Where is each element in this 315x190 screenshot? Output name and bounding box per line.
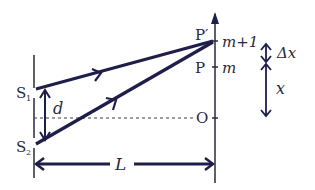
label-s2: S: [16, 138, 26, 156]
label-L: L: [114, 154, 126, 174]
label-p: P: [195, 59, 205, 77]
screen-arrow-icon: [211, 12, 219, 24]
label-s2-subscript: 2: [26, 148, 31, 157]
label-x: x: [276, 79, 285, 98]
label-m-plus-1: m+1: [222, 33, 258, 51]
label-m: m: [222, 59, 236, 77]
label-o: O: [196, 109, 208, 127]
label-d: d: [53, 99, 63, 118]
label-s1-subscript: 1: [26, 94, 31, 103]
label-s1: S: [16, 84, 26, 102]
label-delta-x: Δx: [276, 44, 297, 62]
ray-s2-to-p-prime: [36, 42, 213, 144]
ray-s1-to-p-prime: [36, 41, 213, 89]
double-slit-diagram: S 1 S 2 d O P′ P m+1 m Δx x L: [0, 0, 315, 190]
label-p-prime: P′: [195, 26, 209, 44]
